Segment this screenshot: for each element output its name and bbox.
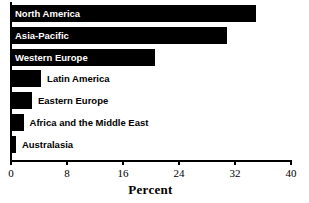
x-tick-8	[66, 160, 68, 165]
x-axis-line	[10, 160, 291, 162]
bar-row: Latin America	[0, 70, 309, 87]
bar-latin-america	[11, 70, 41, 87]
x-tick-32	[234, 160, 236, 165]
x-tick-0	[10, 160, 12, 165]
bar-label: North America	[15, 5, 80, 22]
bar-label: Western Europe	[15, 49, 88, 66]
bar-label: Africa and the Middle East	[30, 114, 149, 131]
bar-label: Australasia	[22, 136, 73, 153]
x-tick-label-8: 8	[64, 167, 70, 179]
bar-australasia	[11, 136, 16, 153]
bar-label: Latin America	[47, 70, 109, 87]
x-tick-40	[290, 160, 292, 165]
bar-row: Africa and the Middle East	[0, 114, 309, 131]
x-tick-label-0: 0	[8, 167, 14, 179]
bar-row: Eastern Europe	[0, 92, 309, 109]
x-tick-label-40: 40	[286, 167, 297, 179]
x-tick-16	[122, 160, 124, 165]
bar-chart: North AmericaAsia-PacificWestern EuropeL…	[0, 0, 309, 203]
bar-eastern-europe	[11, 92, 32, 109]
x-tick-label-32: 32	[230, 167, 241, 179]
bar-label: Asia-Pacific	[15, 27, 69, 44]
bar-africa-and-the-middle-east	[11, 114, 24, 131]
bar-label: Eastern Europe	[38, 92, 108, 109]
x-tick-label-24: 24	[174, 167, 185, 179]
bar-row: Australasia	[0, 136, 309, 153]
bar-row: North America	[0, 5, 309, 22]
x-axis-title: Percent	[0, 182, 301, 198]
bar-row: Asia-Pacific	[0, 27, 309, 44]
bar-row: Western Europe	[0, 49, 309, 66]
x-tick-24	[178, 160, 180, 165]
x-tick-label-16: 16	[118, 167, 129, 179]
plot-area: North AmericaAsia-PacificWestern EuropeL…	[0, 0, 309, 160]
